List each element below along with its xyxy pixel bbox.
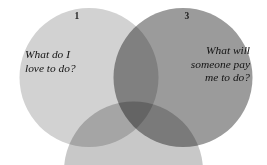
caption-line: What will <box>146 44 250 58</box>
circle-number-1: 1 <box>67 11 87 21</box>
venn-diagram: 1 3 What do I love to do? What will some… <box>0 0 267 165</box>
labels-layer: 1 3 What do I love to do? What will some… <box>0 0 267 165</box>
caption-line: love to do? <box>25 62 117 76</box>
caption-line: someone pay <box>146 58 250 72</box>
circle-caption-1: What do I love to do? <box>25 48 117 75</box>
circle-number-3: 3 <box>177 11 197 21</box>
circle-caption-3: What will someone pay me to do? <box>146 44 250 85</box>
caption-line: What do I <box>25 48 117 62</box>
caption-line: me to do? <box>146 71 250 85</box>
